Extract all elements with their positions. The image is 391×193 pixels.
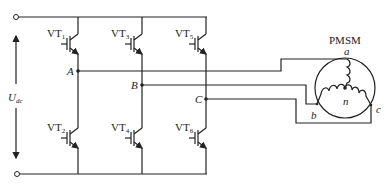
- dc-negative-rail: [15, 172, 208, 177]
- terminal-label-b: b: [311, 109, 317, 121]
- switch-label-vt2: VT2: [47, 121, 66, 135]
- node-label-a: A: [66, 65, 74, 77]
- switch-label-vt3: VT3: [111, 27, 130, 41]
- winding-c-icon: [345, 85, 371, 105]
- inverter-circuit-diagram: Udc VT1 VT3 VT5: [0, 0, 391, 193]
- switch-label-vt5: VT5: [175, 27, 194, 41]
- winding-b-icon: [317, 84, 345, 104]
- node-label-b: B: [131, 79, 138, 91]
- neutral-label: n: [343, 95, 349, 107]
- negative-terminal-icon: [15, 172, 20, 177]
- dc-voltage-label: Udc: [8, 91, 23, 105]
- terminal-label-c: c: [376, 103, 381, 115]
- winding-a-icon: [345, 59, 350, 88]
- positive-terminal-icon: [14, 15, 19, 20]
- switch-label-vt6: VT6: [175, 121, 194, 135]
- dc-voltage-indicator: Udc: [8, 36, 23, 158]
- terminal-label-a: a: [344, 45, 350, 57]
- switch-label-vt4: VT4: [111, 121, 130, 135]
- phase-b-output: B: [131, 79, 317, 104]
- switch-label-vt1: VT1: [47, 27, 66, 41]
- node-label-c: C: [195, 93, 203, 105]
- switch-vt2: [61, 71, 78, 174]
- dc-positive-rail: [14, 15, 208, 20]
- switch-vt6: [189, 99, 206, 174]
